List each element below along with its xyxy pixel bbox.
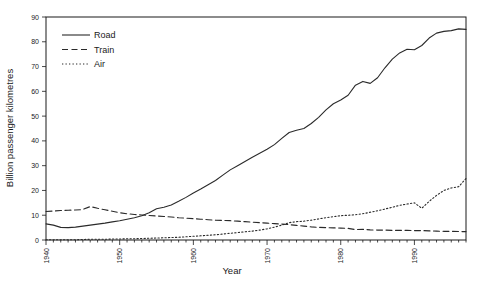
- y-tick-label: 20: [31, 187, 39, 194]
- y-tick-label: 30: [31, 162, 39, 169]
- y-tick-label: 0: [35, 237, 39, 244]
- x-tick-label: 1980: [337, 248, 344, 264]
- y-tick-label: 40: [31, 137, 39, 144]
- x-axis-ticks: 194019501960197019801990: [43, 240, 466, 264]
- x-tick-label: 1990: [411, 248, 418, 264]
- y-tick-label: 70: [31, 63, 39, 70]
- series-line-air: [46, 179, 466, 240]
- chart-page: 0102030405060708090 19401950196019701980…: [0, 0, 484, 285]
- series-line-train: [46, 207, 466, 232]
- x-tick-label: 1970: [264, 248, 271, 264]
- x-tick-label: 1940: [43, 248, 50, 264]
- legend-label-air: Air: [94, 59, 105, 69]
- x-tick-label: 1960: [190, 248, 197, 264]
- series-line-road: [46, 29, 466, 228]
- x-tick-label: 1950: [116, 248, 123, 264]
- y-tick-label: 10: [31, 212, 39, 219]
- legend-label-train: Train: [94, 45, 114, 55]
- chart-legend: RoadTrainAir: [62, 30, 116, 69]
- line-chart: 0102030405060708090 19401950196019701980…: [0, 0, 484, 285]
- x-axis-title: Year: [222, 265, 241, 276]
- y-tick-label: 60: [31, 88, 39, 95]
- series-group: [46, 29, 466, 240]
- y-axis-title: Billion passenger kilometres: [4, 69, 15, 188]
- legend-label-road: Road: [94, 30, 116, 40]
- y-tick-label: 50: [31, 113, 39, 120]
- y-tick-label: 80: [31, 38, 39, 45]
- y-tick-label: 90: [31, 14, 39, 21]
- y-axis-ticks: 0102030405060708090: [31, 14, 46, 244]
